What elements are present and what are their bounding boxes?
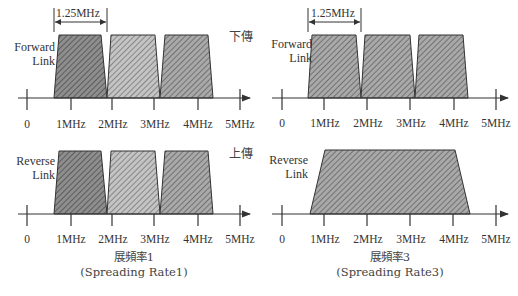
- label-line: Forward: [262, 37, 312, 51]
- tick-label: 2MHz: [353, 117, 382, 129]
- label-line: Reverse: [5, 154, 55, 168]
- carrier-3: [160, 151, 213, 214]
- tick-label: 3MHz: [140, 118, 169, 130]
- caption-spreading-rate-3: 展頻率3 (Spreading Rate3): [336, 250, 443, 280]
- tick-label: 5MHz: [481, 233, 510, 245]
- tick-label: 3MHz: [140, 233, 169, 245]
- tick-label: 3MHz: [396, 233, 425, 245]
- tick-label: 0: [24, 233, 30, 245]
- carrier-1: [308, 35, 361, 98]
- tick-label: 2MHz: [98, 118, 127, 130]
- label-line: Link: [262, 51, 312, 65]
- tick-label: 0: [279, 117, 285, 129]
- tick-label: 1MHz: [56, 233, 85, 245]
- caption-cn: 展頻率1: [80, 250, 187, 265]
- carrier-3: [160, 35, 213, 98]
- carrier-2: [107, 151, 160, 214]
- tick-label: 1MHz: [56, 118, 85, 130]
- tick-label: 1MHz: [310, 117, 339, 129]
- label-line: Link: [5, 168, 55, 182]
- label-line: Link: [258, 167, 308, 181]
- tick-label: 1MHz: [310, 233, 339, 245]
- caption-en: (Spreading Rate1): [80, 265, 187, 280]
- uplink-label: 上傳: [229, 144, 253, 161]
- caption-en: (Spreading Rate3): [336, 265, 443, 280]
- tick-label: 4MHz: [183, 233, 212, 245]
- tick-label: 5MHz: [225, 233, 254, 245]
- bandwidth-label-right: 1.25MHz: [311, 7, 355, 19]
- tick-label: 4MHz: [439, 117, 468, 129]
- caption-cn: 展頻率3: [336, 250, 443, 265]
- tick-label: 0: [279, 233, 285, 245]
- tick-label: 4MHz: [439, 233, 468, 245]
- carrier-2: [107, 35, 160, 98]
- downlink-label: 下傳: [229, 27, 253, 44]
- carrier-1: [54, 35, 107, 98]
- carrier-3: [415, 35, 468, 98]
- label-line: Link: [5, 54, 55, 68]
- label-line: Forward: [5, 40, 55, 54]
- tick-label: 5MHz: [225, 118, 254, 130]
- tick-label: 4MHz: [183, 118, 212, 130]
- reverse-link-label-left: Reverse Link: [5, 154, 55, 182]
- carrier-2: [361, 35, 415, 98]
- carrier-1: [54, 151, 107, 214]
- tick-label: 0: [24, 118, 30, 130]
- wide-carrier: [310, 150, 470, 214]
- tick-label: 5MHz: [481, 117, 510, 129]
- bandwidth-label-left: 1.25MHz: [56, 7, 100, 19]
- label-line: Reverse: [258, 153, 308, 167]
- tick-label: 2MHz: [353, 233, 382, 245]
- forward-link-label-left: Forward Link: [5, 40, 55, 68]
- forward-link-label-right: Forward Link: [262, 37, 312, 65]
- tick-label: 2MHz: [98, 233, 127, 245]
- caption-spreading-rate-1: 展頻率1 (Spreading Rate1): [80, 250, 187, 280]
- tick-label: 3MHz: [396, 117, 425, 129]
- reverse-link-label-right: Reverse Link: [258, 153, 308, 181]
